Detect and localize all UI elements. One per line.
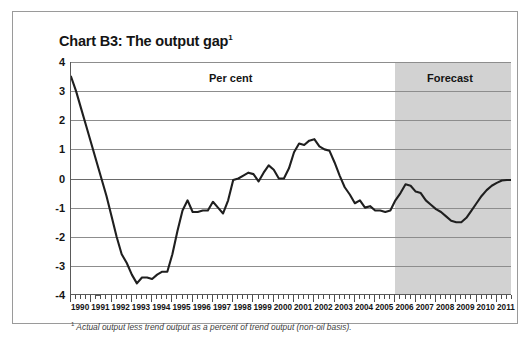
x-tick-minor [263, 295, 264, 299]
x-tick-minor [410, 295, 411, 299]
y-tick-label--2: -2 [55, 231, 65, 243]
x-tick-minor [146, 295, 147, 299]
x-tick-label-2010: 2010 [477, 303, 495, 312]
x-tick-major [293, 295, 294, 302]
x-tick-minor [202, 295, 203, 299]
chart-frame: Chart B3: The output gap1 43210-1-2-3-4 … [12, 11, 518, 324]
x-tick-minor [283, 295, 284, 299]
output-gap-line-series [71, 62, 511, 294]
x-tick-minor [258, 295, 259, 299]
x-tick-minor [237, 295, 238, 299]
footnote-marker: 1 [71, 321, 74, 327]
x-tick-label-1999: 1999 [254, 303, 272, 312]
x-tick-major [151, 295, 152, 302]
x-tick-label-2007: 2007 [416, 303, 434, 312]
x-tick-minor [85, 295, 86, 299]
x-tick-major [70, 295, 71, 302]
y-tick-label-4: 4 [59, 56, 65, 68]
x-tick-label-1996: 1996 [193, 303, 211, 312]
x-tick-minor [141, 295, 142, 299]
x-tick-label-2004: 2004 [355, 303, 373, 312]
x-tick-major [415, 295, 416, 302]
x-tick-minor [222, 295, 223, 299]
x-tick-minor [161, 295, 162, 299]
x-tick-minor [136, 295, 137, 299]
y-tick-label-2: 2 [59, 114, 65, 126]
x-tick-minor [389, 295, 390, 299]
x-tick-label-1998: 1998 [233, 303, 251, 312]
x-tick-label-1997: 1997 [213, 303, 231, 312]
x-tick-label-2003: 2003 [335, 303, 353, 312]
x-tick-minor [465, 295, 466, 299]
plot-area [70, 62, 511, 295]
x-tick-minor [303, 295, 304, 299]
x-tick-minor [384, 295, 385, 299]
x-tick-minor [339, 295, 340, 299]
x-tick-minor [425, 295, 426, 299]
x-tick-minor [116, 295, 117, 299]
x-tick-minor [501, 295, 502, 299]
x-tick-minor [323, 295, 324, 299]
x-tick-minor [349, 295, 350, 299]
x-tick-label-1992: 1992 [112, 303, 130, 312]
title-footnote-marker: 1 [228, 33, 232, 42]
y-tick-label-0: 0 [59, 173, 65, 185]
y-axis-tick-labels: 43210-1-2-3-4 [43, 62, 65, 295]
x-tick-major [435, 295, 436, 302]
output-gap-path [71, 77, 511, 284]
x-tick-minor [288, 295, 289, 299]
x-tick-minor [481, 295, 482, 299]
x-tick-label-1995: 1995 [172, 303, 190, 312]
x-tick-minor [298, 295, 299, 299]
x-tick-minor [268, 295, 269, 299]
x-tick-major [313, 295, 314, 302]
forecast-annotation: Forecast [427, 72, 473, 84]
x-tick-label-1991: 1991 [91, 303, 109, 312]
x-tick-major [476, 295, 477, 302]
x-tick-minor [460, 295, 461, 299]
x-tick-minor [470, 295, 471, 299]
x-tick-label-2006: 2006 [395, 303, 413, 312]
x-tick-minor [364, 295, 365, 299]
x-tick-minor [399, 295, 400, 299]
x-tick-label-2002: 2002 [314, 303, 332, 312]
x-tick-minor [369, 295, 370, 299]
x-axis-tick-labels: 1990199119921993199419951996199719981999… [70, 303, 511, 317]
x-tick-label-2000: 2000 [274, 303, 292, 312]
x-tick-major [90, 295, 91, 302]
x-axis-ticks [70, 295, 511, 302]
x-tick-major [394, 295, 395, 302]
x-tick-minor [359, 295, 360, 299]
x-tick-minor [430, 295, 431, 299]
x-tick-label-2011: 2011 [497, 303, 515, 312]
x-tick-label-2001: 2001 [294, 303, 312, 312]
x-tick-minor [80, 295, 81, 299]
x-tick-label-2008: 2008 [436, 303, 454, 312]
x-tick-minor [75, 295, 76, 299]
page-title: Chart B3: The output gap1 [59, 33, 232, 49]
x-tick-minor [247, 295, 248, 299]
x-tick-major [131, 295, 132, 302]
x-tick-minor [329, 295, 330, 299]
x-tick-major [273, 295, 274, 302]
x-tick-major [212, 295, 213, 302]
x-tick-minor [227, 295, 228, 299]
x-tick-minor [486, 295, 487, 299]
y-tick-label--4: -4 [55, 289, 65, 301]
x-tick-minor [121, 295, 122, 299]
x-tick-major [334, 295, 335, 302]
x-tick-minor [166, 295, 167, 299]
x-tick-minor [344, 295, 345, 299]
x-tick-major [354, 295, 355, 302]
x-tick-major [111, 295, 112, 302]
x-tick-minor [511, 295, 512, 299]
x-tick-minor [187, 295, 188, 299]
chart-page: Chart B3: The output gap1 43210-1-2-3-4 … [0, 0, 532, 337]
x-tick-minor [450, 295, 451, 299]
x-tick-minor [100, 295, 101, 299]
x-tick-label-2009: 2009 [456, 303, 474, 312]
x-tick-minor [182, 295, 183, 299]
x-tick-minor [445, 295, 446, 299]
x-tick-major [252, 295, 253, 302]
y-tick-label--1: -1 [55, 202, 65, 214]
